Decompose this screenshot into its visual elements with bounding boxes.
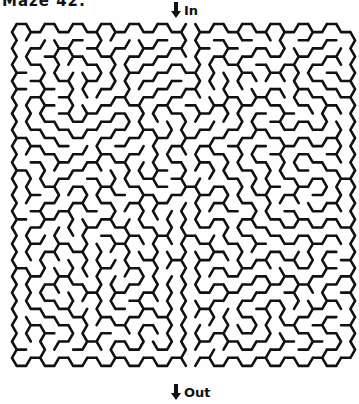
exit-label: Out — [184, 385, 211, 400]
down-arrow-icon — [171, 384, 181, 400]
entrance-label: In — [184, 3, 198, 18]
down-arrow-icon — [171, 2, 181, 18]
exit-marker: Out — [171, 384, 211, 400]
hex-maze[interactable] — [0, 0, 359, 404]
entrance-marker: In — [171, 2, 198, 18]
maze-walls — [12, 24, 355, 366]
